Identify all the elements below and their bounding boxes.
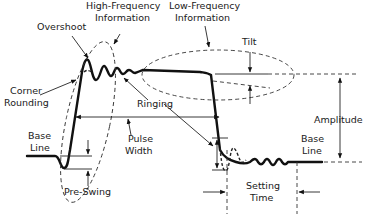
low-frequency-ellipse xyxy=(142,50,294,100)
pre-swing-label: Pre-Swing xyxy=(64,186,111,197)
pulse-waveform xyxy=(27,60,322,169)
settling-time-label-2: Time xyxy=(249,192,273,203)
tilt-slope-dashed xyxy=(213,81,270,88)
corner-rounding-label: Corner xyxy=(10,85,42,96)
undershoot-dashed-wave xyxy=(220,148,246,171)
low-frequency-label-2: Information xyxy=(175,12,230,23)
pulse-width-label-2: Width xyxy=(125,145,153,156)
overshoot-dashed-hint xyxy=(84,71,92,73)
high-frequency-pointer xyxy=(114,34,120,44)
base-line-right-label: Base xyxy=(301,133,324,144)
overshoot-pointer xyxy=(72,36,88,58)
amplitude-label: Amplitude xyxy=(314,114,363,125)
base-line-left-label-2: Line xyxy=(30,142,50,153)
high-frequency-label-2: Information xyxy=(95,12,150,23)
pulse-waveform-diagram: High-Frequency Information Low-Frequency… xyxy=(0,0,368,224)
corner-rounding-pointer xyxy=(40,80,76,95)
corner-rounding-label-2: Rounding xyxy=(4,97,49,108)
ringing-pointer-2 xyxy=(164,104,213,146)
base-line-left-label: Base xyxy=(28,130,51,141)
settling-time-label: Setting xyxy=(246,180,280,191)
low-frequency-label: Low-Frequency xyxy=(169,0,241,11)
base-line-right-label-2: Line xyxy=(302,145,322,156)
high-frequency-label: High-Frequency xyxy=(86,0,161,11)
tilt-label: Tilt xyxy=(241,36,257,47)
low-frequency-pointer xyxy=(205,26,209,47)
ringing-label: Ringing xyxy=(137,98,173,109)
pulse-width-label: Pulse xyxy=(128,133,153,144)
overshoot-label: Overshoot xyxy=(37,21,86,32)
